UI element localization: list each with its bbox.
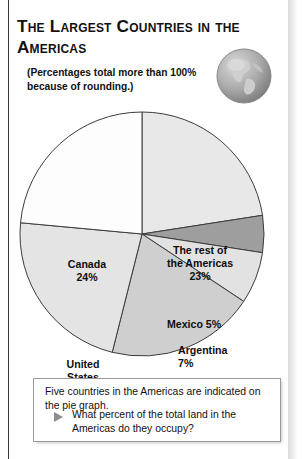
- pie-slice-the-rest-of-the-americas: [142, 112, 263, 234]
- page-edge-shadow: [288, 0, 302, 459]
- rounding-note: (Percentages total more than 100% becaus…: [27, 66, 199, 94]
- caption-box: Five countries in the Americas are indic…: [33, 378, 281, 442]
- pie-label-canada: Canada 24%: [48, 258, 126, 284]
- pie-label-rest-of-americas: The rest of the Americas 23%: [148, 244, 252, 283]
- pie-chart: Canada 24% The rest of the Americas 23% …: [0, 96, 290, 372]
- pie-slice-canada: [21, 112, 142, 234]
- pie-label-mexico: Mexico 5%: [167, 318, 267, 331]
- infographic-page: The Largest Countries in the Americas (P…: [0, 0, 302, 459]
- caption-question: What percent of the total land in the Am…: [72, 408, 272, 435]
- triangle-bullet-icon: [54, 412, 63, 422]
- pie-label-argentina: Argentina 7%: [178, 344, 262, 370]
